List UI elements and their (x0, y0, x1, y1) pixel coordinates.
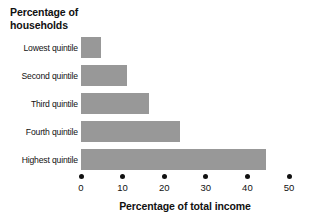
bar (81, 121, 180, 142)
x-tick-label: 0 (78, 182, 83, 193)
x-axis-title: Percentage of total income (81, 200, 289, 212)
bar-fill (81, 121, 180, 142)
x-tick-label: 30 (201, 182, 212, 193)
tick-dot-icon (120, 174, 125, 179)
category-label: Third quintile (2, 99, 78, 109)
bar-fill (81, 93, 149, 114)
x-axis-tick-marks (81, 174, 289, 180)
tick-dot-icon (162, 174, 167, 179)
bar-fill (81, 149, 266, 170)
x-tick-label: 10 (117, 182, 128, 193)
x-tick-label: 20 (159, 182, 170, 193)
tick-dot-icon (245, 174, 250, 179)
category-axis-labels: Lowest quintileSecond quintileThird quin… (0, 36, 78, 172)
bar-chart: Percentage of households Lowest quintile… (0, 0, 311, 224)
bar-fill (81, 65, 127, 86)
category-label: Lowest quintile (2, 43, 78, 53)
tick-dot-icon (287, 174, 292, 179)
bar (81, 93, 149, 114)
bar-fill (81, 37, 101, 58)
plot-area (81, 36, 289, 172)
category-label: Second quintile (2, 71, 78, 81)
y-axis-title: Percentage of households (10, 6, 78, 31)
tick-dot-icon (203, 174, 208, 179)
bar (81, 37, 101, 58)
x-axis-tick-labels: 01020304050 (81, 182, 289, 194)
tick-dot-icon (79, 174, 84, 179)
x-tick-label: 50 (284, 182, 295, 193)
bar (81, 149, 266, 170)
x-tick-label: 40 (242, 182, 253, 193)
category-label: Highest quintile (2, 155, 78, 165)
bar (81, 65, 127, 86)
category-label: Fourth quintile (2, 127, 78, 137)
